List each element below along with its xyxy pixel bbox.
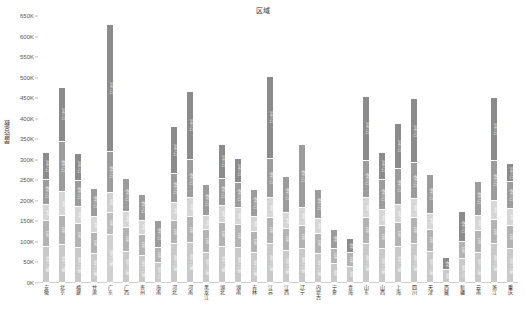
bar-stack[interactable]: 青年人口数壮年中年老年人口少年人口	[75, 154, 82, 283]
bar-stack[interactable]: 青年人口数壮年中年老年人口少年人口	[507, 164, 514, 283]
bar-segment[interactable]: 少年人口	[379, 153, 386, 180]
bar-stack[interactable]: 青年人口数壮年中年老年人口	[475, 182, 482, 283]
bar-segment[interactable]: 青年人口	[459, 259, 466, 283]
bar-segment[interactable]: 中年	[235, 208, 242, 224]
bar-segment[interactable]: 中年	[139, 221, 146, 235]
bar-segment[interactable]: 青年人口数	[203, 253, 210, 283]
bar-segment[interactable]: 中年	[43, 205, 50, 221]
bar-segment[interactable]: 老年	[443, 258, 450, 270]
bar-segment[interactable]: 中年	[315, 219, 322, 234]
bar-segment[interactable]: 老年人口	[235, 183, 242, 208]
bar-segment[interactable]: 青年人口数	[235, 248, 242, 283]
bar-segment[interactable]: 中年	[171, 203, 178, 222]
bar-segment[interactable]: 中年	[187, 198, 194, 217]
bar-segment[interactable]: 壮年	[91, 233, 98, 254]
bar-stack[interactable]: 青年人口数壮年中年老年人口少年人口	[235, 159, 242, 283]
bar-segment[interactable]: 中年	[251, 217, 258, 232]
bar-segment[interactable]: 老年人口	[283, 177, 290, 214]
bar-stack[interactable]: 青年人口数壮年中年老年人口	[123, 179, 130, 283]
bar-segment[interactable]: 中年	[107, 193, 114, 214]
bar-segment[interactable]: 壮年	[123, 228, 130, 252]
bar-stack[interactable]: 青年人口数壮年中年老年人口	[427, 175, 434, 283]
bar-segment[interactable]: 中年	[219, 206, 226, 223]
bar-stack[interactable]: 青年人口数壮年中年老年人口少年人口	[43, 153, 50, 283]
bar-segment[interactable]: 壮年	[219, 223, 226, 247]
bar-segment[interactable]: 青年人口数	[395, 247, 402, 283]
bar-segment[interactable]: 壮年	[59, 216, 66, 245]
bar-segment[interactable]: 老年人口	[427, 175, 434, 214]
bar-stack[interactable]: 青年人口数壮年中年老年人口	[315, 190, 322, 283]
bar-segment[interactable]: 中年	[75, 207, 82, 224]
bar-segment[interactable]: 老年人口	[203, 185, 210, 216]
bar-segment[interactable]: 少年人口	[395, 124, 402, 168]
bar-segment[interactable]: 壮年	[491, 220, 498, 245]
bar-segment[interactable]: 青年人口数	[171, 244, 178, 283]
bar-segment[interactable]: 青年人口数	[43, 247, 50, 283]
bar-segment[interactable]: 中年	[91, 217, 98, 233]
bar-stack[interactable]: 青年人口数壮年中年老年人口少年人口	[379, 153, 386, 283]
bar-segment[interactable]: 少年人口	[59, 88, 66, 142]
bar-segment[interactable]: 老年人口	[363, 161, 370, 199]
bar-segment[interactable]: 少年人口	[491, 98, 498, 161]
bar-stack[interactable]: 青年人口数壮年中年老年人口少年人口	[411, 99, 418, 283]
bar-stack[interactable]: 青年人口数壮年中年老年人口少年人口	[171, 127, 178, 284]
bar-segment[interactable]: 中年	[507, 209, 514, 226]
bar-segment[interactable]: 青年人口数	[187, 243, 194, 283]
bar-segment[interactable]: 壮年	[347, 253, 354, 266]
bar-segment[interactable]: 壮年	[299, 226, 306, 249]
bar-stack[interactable]: 青年人口数壮年中年老年人口少年人口	[491, 98, 498, 283]
bar-segment[interactable]: 中年	[411, 199, 418, 218]
bar-stack[interactable]: 青年人口数壮年中年老年人口	[299, 145, 306, 283]
bar-segment[interactable]: 壮年	[283, 229, 290, 251]
bar-segment[interactable]: 壮年	[507, 226, 514, 249]
bar-segment[interactable]: 中年	[491, 201, 498, 220]
bar-segment[interactable]: 中年	[363, 198, 370, 218]
bar-segment[interactable]: 壮年	[235, 225, 242, 248]
bar-segment[interactable]: 青年人口数	[379, 249, 386, 283]
bar-segment[interactable]: 中年	[299, 208, 306, 225]
bar-segment[interactable]: 少年人口	[267, 77, 274, 159]
bar-stack[interactable]: 青年老年	[443, 258, 450, 283]
bar-segment[interactable]: 中年	[475, 216, 482, 232]
bar-segment[interactable]: 中年	[123, 212, 130, 228]
bar-stack[interactable]: 青年人口数壮年中年老年人口少年人口	[219, 145, 226, 283]
bar-stack[interactable]: 青年人口数壮年中年老年人口少年人口	[363, 97, 370, 283]
bar-segment[interactable]: 少年人口	[187, 92, 194, 160]
bar-segment[interactable]: 青年人口数	[59, 245, 66, 283]
bar-segment[interactable]: 老年人口	[75, 181, 82, 206]
bar-segment[interactable]: 老年	[331, 230, 338, 249]
bar-segment[interactable]: 老年人口	[395, 169, 402, 205]
bar-segment[interactable]: 老年人口	[507, 182, 514, 209]
bar-segment[interactable]: 老年人口	[107, 152, 114, 193]
bar-segment[interactable]: 壮年	[475, 231, 482, 252]
bar-segment[interactable]: 少年人口	[75, 154, 82, 181]
bar-segment[interactable]: 少年人口	[107, 25, 114, 152]
bar-segment[interactable]: 壮年	[107, 213, 114, 234]
bar-segment[interactable]: 壮年	[171, 221, 178, 244]
bar-segment[interactable]: 老年人口	[267, 159, 274, 198]
bar-stack[interactable]: 青年壮年老年	[347, 239, 354, 283]
bar-segment[interactable]: 壮年	[395, 223, 402, 247]
bar-segment[interactable]: 青年人口数	[363, 244, 370, 283]
bar-segment[interactable]: 老年人口	[459, 212, 466, 242]
bar-segment[interactable]: 壮年	[187, 217, 194, 242]
bar-segment[interactable]: 壮年	[43, 221, 50, 246]
bar-segment[interactable]: 青年人口	[155, 263, 162, 283]
bar-segment[interactable]: 青年	[443, 270, 450, 283]
bar-segment[interactable]: 老年人口	[59, 142, 66, 192]
bar-segment[interactable]: 少年人口	[235, 159, 242, 183]
bar-segment[interactable]: 青年人口数	[91, 254, 98, 283]
bar-segment[interactable]: 老年人口	[251, 190, 258, 218]
bar-stack[interactable]: 青年人口数壮年中年老年人口少年人口	[59, 87, 66, 283]
bar-segment[interactable]: 壮年	[411, 218, 418, 243]
bar-segment[interactable]: 壮年	[139, 235, 146, 256]
bar-segment[interactable]: 壮年	[363, 218, 370, 243]
bar-segment[interactable]: 中年	[203, 216, 210, 231]
bar-stack[interactable]: 青年人口数壮年中年老年人口	[91, 189, 98, 283]
bar-stack[interactable]: 青年人口壮年老年人口	[155, 221, 162, 283]
bar-segment[interactable]: 老年人口	[219, 179, 226, 206]
bar-segment[interactable]: 少年人口	[411, 99, 418, 163]
bar-segment[interactable]: 老年人口	[491, 161, 498, 201]
bar-segment[interactable]: 老年人口	[155, 221, 162, 247]
bar-segment[interactable]: 壮年	[251, 232, 258, 253]
